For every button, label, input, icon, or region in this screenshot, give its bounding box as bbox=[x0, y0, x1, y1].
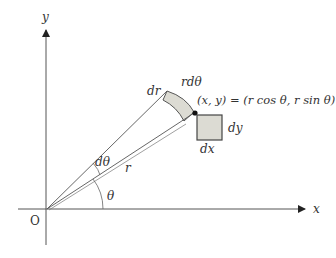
dx-label: dx bbox=[200, 142, 215, 156]
ray-lower bbox=[47, 113, 194, 209]
r-dimension-line bbox=[49, 124, 186, 210]
theta-label: θ bbox=[107, 189, 115, 203]
polar-area-element-diagram: y x O dr rdθ (x, y) = (r cos θ, r sin θ)… bbox=[0, 0, 336, 258]
origin-label: O bbox=[30, 214, 40, 228]
dy-label: dy bbox=[228, 121, 243, 135]
x-axis-label: x bbox=[313, 202, 320, 216]
r-dtheta-label: rdθ bbox=[181, 75, 202, 89]
dr-label: dr bbox=[147, 84, 162, 98]
r-label: r bbox=[125, 161, 132, 175]
point-coordinates-label: (x, y) = (r cos θ, r sin θ) bbox=[197, 93, 335, 107]
y-axis-label: y bbox=[41, 10, 49, 24]
dtheta-label: dθ bbox=[95, 155, 111, 169]
theta-arc bbox=[93, 179, 103, 209]
dxdy-square bbox=[197, 115, 222, 140]
